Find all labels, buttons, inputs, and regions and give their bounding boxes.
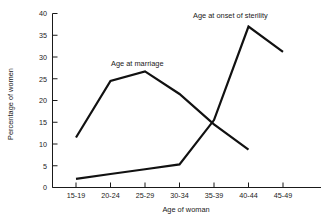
line-chart: Percentage of women 40 35 30 25 20 15 10 — [0, 0, 333, 223]
x-tick-label: 45-49 — [274, 191, 292, 200]
y-tick-label: 35 — [39, 31, 47, 40]
x-axis-tick-labels: 15-19 20-24 25-29 30-34 35-39 40-44 45-4… — [67, 191, 292, 200]
y-tick-label: 5 — [43, 162, 47, 171]
x-tick-label: 30-34 — [170, 191, 188, 200]
y-tick-label: 15 — [39, 118, 47, 127]
y-axis-title: Percentage of women — [6, 68, 15, 140]
y-axis-tick-labels: 40 35 30 25 20 15 10 5 0 — [39, 9, 47, 192]
y-tick-label: 30 — [39, 53, 47, 62]
x-tick-label: 20-24 — [101, 191, 119, 200]
series-line-age-at-marriage — [76, 71, 249, 149]
y-tick-label: 40 — [39, 9, 47, 18]
series-line-age-at-onset-of-sterility — [76, 27, 283, 179]
x-tick-label: 35-39 — [205, 191, 223, 200]
y-tick-label: 0 — [43, 183, 47, 192]
y-tick-label: 20 — [39, 96, 47, 105]
annotation-age-at-marriage: Age at marriage — [111, 59, 164, 68]
x-tick-label: 25-29 — [136, 191, 154, 200]
x-axis-ticks — [76, 183, 283, 188]
x-tick-label: 15-19 — [67, 191, 85, 200]
y-tick-label: 25 — [39, 75, 47, 84]
y-tick-label: 10 — [39, 140, 47, 149]
x-tick-label: 40-44 — [239, 191, 257, 200]
x-axis-title: Age of woman — [162, 205, 209, 214]
y-axis-ticks — [53, 14, 58, 188]
chart-container: Percentage of women 40 35 30 25 20 15 10 — [0, 0, 333, 223]
annotation-age-at-onset-of-sterility: Age at onset of sterility — [193, 11, 268, 20]
